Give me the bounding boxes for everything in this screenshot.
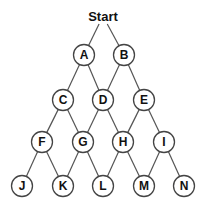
diagram-canvas: StartABCDEFGHIJKLMN bbox=[0, 0, 206, 211]
node-label: J bbox=[19, 179, 26, 193]
edge-a-c bbox=[67, 65, 79, 91]
node-label: D bbox=[99, 93, 108, 107]
edge-d-h bbox=[108, 109, 119, 132]
edge-g-l bbox=[87, 152, 98, 177]
node-e: E bbox=[134, 90, 155, 111]
node-label: A bbox=[80, 48, 89, 62]
node-i: I bbox=[154, 132, 175, 153]
edge-b-d bbox=[107, 65, 119, 91]
edge-f-j bbox=[26, 152, 37, 177]
edge-i-n bbox=[168, 152, 179, 177]
edge-start-a bbox=[89, 24, 99, 45]
edge-g-k bbox=[67, 152, 78, 177]
node-label: L bbox=[99, 179, 106, 193]
node-label: F bbox=[38, 135, 45, 149]
edge-b-e bbox=[128, 65, 139, 91]
node-label: C bbox=[59, 93, 68, 107]
edge-e-i bbox=[149, 109, 160, 132]
node-k: K bbox=[53, 176, 74, 197]
edge-i-m bbox=[148, 152, 159, 177]
node-n: N bbox=[174, 176, 195, 197]
node-l: L bbox=[93, 176, 114, 197]
node-j: J bbox=[12, 176, 33, 197]
start-label: Start bbox=[88, 9, 118, 24]
node-d: D bbox=[93, 90, 114, 111]
edge-h-m bbox=[128, 151, 140, 176]
node-label: N bbox=[180, 179, 189, 193]
node-label: K bbox=[59, 179, 68, 193]
edge-c-g bbox=[68, 109, 79, 132]
node-a: A bbox=[74, 45, 95, 66]
edge-d-g bbox=[88, 109, 99, 132]
edge-e-h bbox=[128, 109, 140, 132]
edge-start-b bbox=[107, 24, 119, 46]
node-label: H bbox=[119, 135, 128, 149]
node-m: M bbox=[134, 176, 155, 197]
edge-h-l bbox=[107, 152, 118, 177]
node-label: M bbox=[139, 179, 149, 193]
node-label: E bbox=[140, 93, 148, 107]
node-c: C bbox=[53, 90, 74, 111]
node-h: H bbox=[113, 132, 134, 153]
tree-diagram: StartABCDEFGHIJKLMN bbox=[0, 0, 206, 211]
edge-c-f bbox=[47, 109, 59, 132]
node-label: I bbox=[162, 135, 165, 149]
node-label: G bbox=[78, 135, 87, 149]
node-g: G bbox=[73, 132, 94, 153]
edge-a-d bbox=[88, 65, 99, 91]
nodes-layer: StartABCDEFGHIJKLMN bbox=[12, 9, 195, 197]
node-label: B bbox=[120, 48, 129, 62]
node-b: B bbox=[114, 45, 135, 66]
node-f: F bbox=[32, 132, 53, 153]
edge-f-k bbox=[47, 151, 59, 176]
